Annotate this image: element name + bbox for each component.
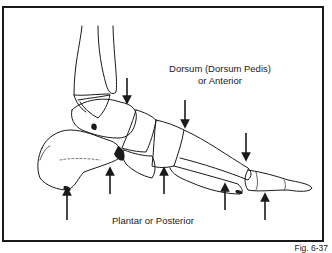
cuneiform — [152, 120, 184, 168]
phalanges — [245, 170, 312, 191]
navicular — [122, 110, 156, 152]
cuboid — [123, 150, 155, 178]
dorsal-label-line2: or Anterior — [160, 75, 280, 87]
dorsal-label-line1: Dorsum (Dorsum Pedis) — [160, 63, 280, 75]
metatarsal-1 — [180, 130, 251, 180]
figure-number: Fig. 6-37 — [294, 243, 328, 253]
talus — [71, 99, 136, 138]
plantar-surface-label: Plantar or Posterior — [112, 215, 222, 227]
metatarsal-5 — [170, 166, 242, 194]
dorsal-surface-label: Dorsum (Dorsum Pedis) or Anterior — [160, 63, 280, 87]
